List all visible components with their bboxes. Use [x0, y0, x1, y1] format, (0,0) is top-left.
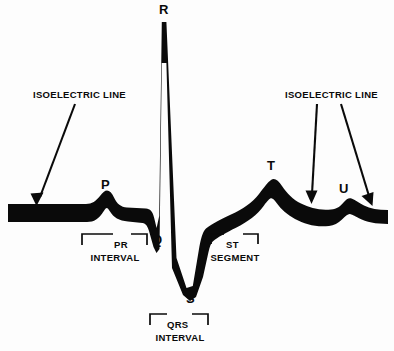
isoelectric-line-label-left: ISOELECTRIC LINE [33, 89, 126, 100]
q-wave-label: Q [152, 232, 162, 247]
ecg-waveform-graphic [0, 0, 394, 351]
u-wave-label: U [339, 181, 349, 196]
p-wave-label: P [101, 177, 110, 192]
isoelectric-line-label-right: ISOELECTRIC LINE [285, 89, 378, 100]
st-segment-label-line1: ST [226, 239, 239, 250]
ecg-trace-path [8, 22, 388, 301]
isoelectric-left-arrow [31, 104, 76, 206]
pr-interval-label-line2: INTERVAL [86, 252, 144, 263]
ecg-diagram: ISOELECTRIC LINE ISOELECTRIC LINE P Q R … [0, 0, 394, 351]
s-wave-label: S [186, 291, 195, 306]
t-wave-label: T [267, 158, 275, 173]
pr-interval-label-line1: PR [114, 239, 128, 250]
qrs-interval-label-line2: INTERVAL [151, 332, 209, 343]
isoelectric-right-arrow-1 [306, 104, 318, 204]
r-wave-label: R [159, 2, 169, 17]
qrs-interval-label-line1: QRS [167, 319, 189, 330]
st-segment-label-line2: SEGMENT [205, 252, 265, 263]
